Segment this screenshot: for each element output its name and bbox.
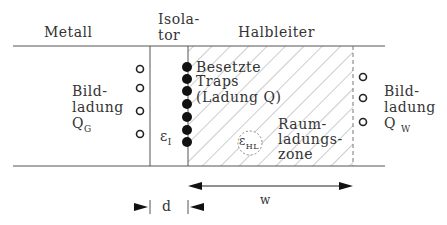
right-image-charge-symbol: Q W [384, 116, 411, 133]
left-image-charge-line1: Bild- [72, 84, 107, 99]
space-charge-label-line2: ladungs- [278, 132, 343, 147]
w-label: w [260, 193, 271, 208]
semiconductor-permittivity: εHL [239, 134, 259, 150]
q-subscript: W [401, 124, 411, 134]
left-image-charge-circles [137, 66, 144, 138]
space-charge-label-line1: Raum- [278, 117, 327, 132]
epsilon-subscript: I [168, 137, 172, 147]
q-subscript: G [84, 124, 92, 134]
d-label: d [162, 199, 171, 214]
left-image-charge-symbol: QG [72, 116, 92, 133]
right-image-charge-line2: ladung [384, 100, 436, 115]
mis-structure-diagram: Metall Isola- tor Halbleiter Bild- ladun… [0, 0, 447, 225]
traps-label-line2: Traps [196, 74, 239, 89]
right-image-charge-line1: Bild- [384, 84, 419, 99]
w-dimension-arrow [188, 182, 353, 190]
q-symbol: Q [384, 115, 396, 131]
epsilon-symbol: ε [239, 134, 246, 148]
space-charge-label-line3: zone [278, 147, 313, 162]
insulator-permittivity: εI [160, 129, 172, 146]
metal-header: Metall [44, 25, 93, 40]
insulator-header-line2: tor [158, 28, 180, 43]
q-symbol: Q [72, 115, 84, 131]
epsilon-subscript: HL [246, 142, 259, 151]
epsilon-symbol: ε [160, 128, 168, 144]
right-image-charge-circles [360, 74, 367, 126]
insulator-header-line1: Isola- [158, 12, 200, 27]
semiconductor-header: Halbleiter [238, 25, 315, 40]
traps-label-line3: (Ladung Q) [196, 90, 281, 105]
left-image-charge-line2: ladung [72, 100, 124, 115]
